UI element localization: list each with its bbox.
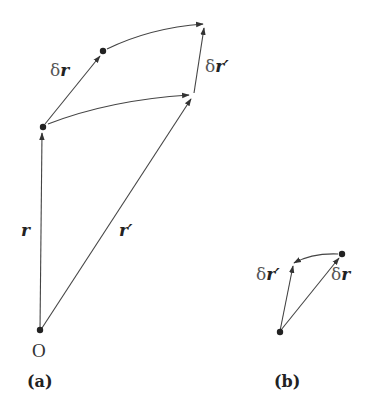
curve-lower [48, 95, 189, 124]
point-b-tip-dot [339, 251, 345, 257]
delta-symbol: δ [256, 264, 266, 284]
vector-r [40, 133, 42, 330]
label-delta-r-prime-text: r′ [215, 56, 228, 76]
label-b-delta-r-prime: δr′ [256, 266, 280, 283]
label-delta-r-text: r [60, 60, 69, 80]
vector-delta-r-prime [194, 28, 204, 93]
delta-symbol: δ [205, 56, 215, 76]
point-p-dot [40, 124, 46, 130]
label-delta-r-prime: δr′ [205, 58, 229, 75]
point-b-origin-dot [277, 329, 283, 335]
curve-upper [107, 24, 203, 49]
point-p-plus-dr-dot [100, 48, 106, 54]
curve-b [294, 254, 338, 263]
label-delta-r: δr [50, 62, 69, 79]
caption-a: (a) [27, 374, 53, 390]
origin-label: O [32, 341, 46, 360]
caption-b: (b) [274, 374, 300, 390]
label-r: r [21, 222, 30, 239]
label-b-delta-r-text: r [341, 264, 350, 284]
label-b-delta-r-prime-text: r′ [266, 264, 279, 284]
vector-b-delta-r-prime [280, 266, 293, 331]
origin-dot [37, 327, 43, 333]
label-b-delta-r: δr [331, 266, 350, 283]
label-r-prime: r′ [119, 222, 132, 239]
delta-symbol: δ [331, 264, 341, 284]
vector-r-prime [42, 99, 191, 328]
delta-symbol: δ [50, 60, 60, 80]
